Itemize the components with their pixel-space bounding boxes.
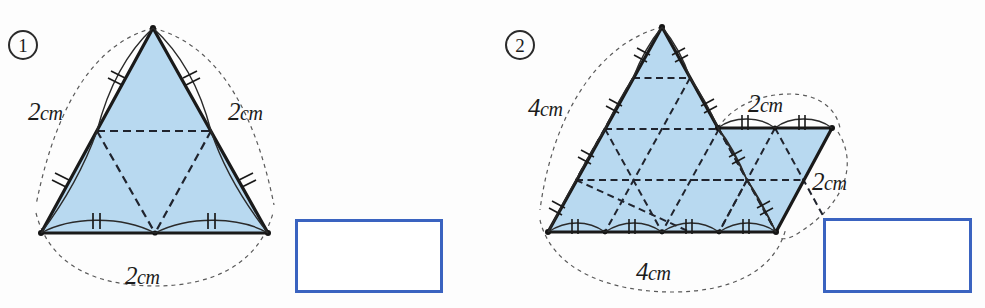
dimension-unit: cm bbox=[540, 98, 562, 120]
problem-number-2: 2 bbox=[505, 30, 535, 60]
problem-number-2-text: 2 bbox=[515, 35, 525, 56]
dimension-unit: cm bbox=[240, 102, 262, 124]
dimension-label-parallelogram-side-2: 2cm bbox=[812, 168, 846, 196]
answer-box-1[interactable] bbox=[295, 219, 443, 293]
dimension-value: 2 bbox=[748, 90, 760, 117]
answer-box-2[interactable] bbox=[823, 218, 972, 293]
dimension-label-left-2: 4cm bbox=[528, 94, 562, 122]
dimension-label-right-1: 2cm bbox=[228, 98, 262, 126]
worksheet-page: 1 2cm 2cm 2cm 2 4cm 2cm 2cm 4cm bbox=[0, 0, 985, 308]
dimension-unit: cm bbox=[824, 172, 846, 194]
dimension-value: 4 bbox=[528, 94, 540, 121]
dimension-unit: cm bbox=[137, 266, 159, 288]
dimension-label-parallelogram-top-2: 2cm bbox=[748, 90, 782, 118]
dimension-value: 2 bbox=[812, 168, 824, 195]
dimension-label-left-1: 2cm bbox=[28, 98, 62, 126]
dimension-value: 2 bbox=[125, 262, 137, 289]
problem-number-1: 1 bbox=[8, 30, 38, 60]
dimension-unit: cm bbox=[648, 262, 670, 284]
figure-2-group bbox=[540, 24, 847, 292]
dimension-value: 2 bbox=[28, 98, 40, 125]
dimension-unit: cm bbox=[40, 102, 62, 124]
figure-1-group bbox=[36, 25, 274, 286]
dimension-label-base-2: 4cm bbox=[636, 258, 670, 286]
dimension-value: 2 bbox=[228, 98, 240, 125]
dimension-value: 4 bbox=[636, 258, 648, 285]
dimension-unit: cm bbox=[760, 94, 782, 116]
problem-number-1-text: 1 bbox=[18, 35, 28, 56]
dimension-label-base-1: 2cm bbox=[125, 262, 159, 290]
